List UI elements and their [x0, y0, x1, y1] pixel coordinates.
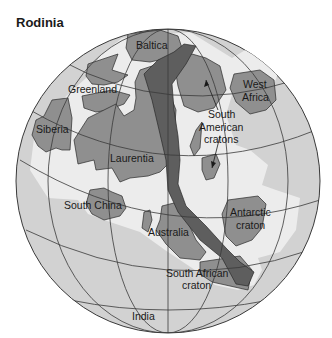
label-south-american-3: cratons	[204, 133, 238, 145]
label-south-american: South	[208, 108, 236, 120]
label-india: India	[132, 310, 155, 322]
label-laurentia: Laurentia	[110, 152, 154, 164]
label-south-china: South China	[64, 199, 122, 211]
label-south-african: South African	[166, 267, 229, 279]
label-greenland: Greenland	[68, 83, 117, 95]
label-west-africa: West	[243, 78, 267, 90]
label-south-american-2: American	[199, 121, 244, 133]
label-siberia: Siberia	[36, 123, 69, 135]
label-south-african-2: craton	[182, 279, 211, 291]
label-antarctic: Antarctic	[230, 206, 271, 218]
label-australia: Australia	[148, 226, 189, 238]
label-west-africa-2: Africa	[242, 91, 269, 103]
rodinia-globe-map: Baltica Greenland West Africa Siberia So…	[0, 0, 332, 338]
label-antarctic-2: craton	[236, 219, 265, 231]
label-baltica: Baltica	[136, 39, 168, 51]
